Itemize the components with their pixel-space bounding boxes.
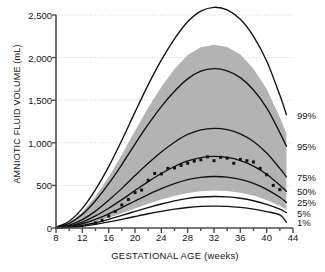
data-point [226, 157, 229, 160]
data-point [213, 159, 216, 162]
data-point [252, 160, 255, 163]
data-point [107, 215, 110, 218]
data-point [134, 191, 137, 194]
percentile-label-1pct: 1% [297, 217, 311, 228]
data-point [278, 188, 281, 191]
data-point [219, 156, 222, 159]
data-point [153, 172, 156, 175]
data-point [186, 162, 189, 165]
data-point [94, 221, 97, 224]
data-point [259, 167, 262, 170]
percentile-label-50pct: 50% [297, 186, 316, 197]
data-point [272, 184, 275, 187]
percentile-label-75pct: 75% [297, 171, 316, 182]
percentile-label-99pct: 99% [297, 109, 316, 120]
data-point [206, 155, 209, 158]
data-point [127, 198, 130, 201]
data-point [147, 179, 150, 182]
data-point [114, 210, 117, 213]
data-point [120, 203, 123, 206]
data-point [232, 162, 235, 165]
data-point [239, 158, 242, 161]
chart-figure: 05001,0001,5002,0002,500 AMNIOTIC FLUID … [0, 0, 325, 272]
data-point [193, 160, 196, 163]
data-point [173, 166, 176, 169]
data-point [265, 173, 268, 176]
x-tick-label: 44 [278, 232, 308, 243]
data-point [199, 158, 202, 161]
percentile-label-95pct: 95% [297, 141, 316, 152]
data-point [101, 219, 104, 222]
data-point [180, 164, 183, 167]
data-point [245, 159, 248, 162]
data-point [160, 172, 163, 175]
data-point [166, 167, 169, 170]
data-point [140, 189, 143, 192]
